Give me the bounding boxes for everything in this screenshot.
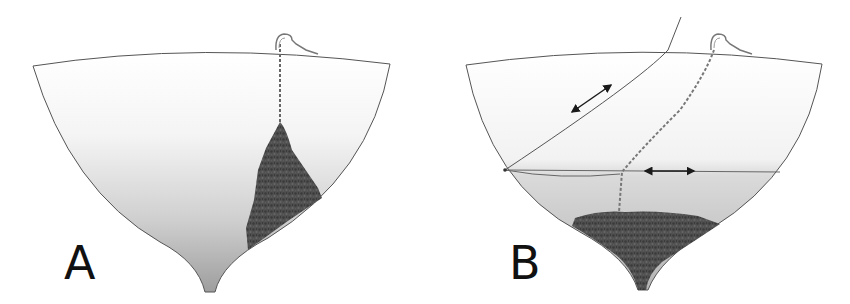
chain-pile-b [572, 212, 720, 291]
panel-label-a: A [64, 240, 95, 286]
panel-label-b: B [509, 240, 541, 286]
windlass-icon-a [276, 34, 318, 54]
diagram-canvas [0, 0, 850, 304]
windlass-icon-b [711, 34, 752, 54]
